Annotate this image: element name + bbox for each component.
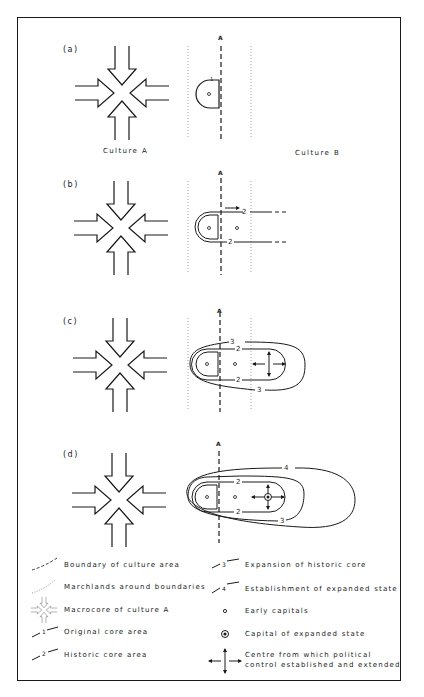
macrocore-arrows-icon <box>75 46 169 140</box>
boundary-label-a: A <box>218 34 223 41</box>
line-number-2: 2 <box>228 238 234 247</box>
legend-centre-label-2: control established and extended <box>245 661 401 670</box>
culture-b-label: Culture B <box>295 149 340 157</box>
boundary-label-b: A <box>218 169 223 176</box>
line-number-3: 3 <box>280 517 286 526</box>
legend-centre-label-1: Centre from which political <box>245 651 372 660</box>
legend-establishment-label: Establishment of expanded state <box>245 585 398 594</box>
line-number-4: 4 <box>284 464 290 473</box>
panel-label-c: (c) <box>63 317 78 326</box>
panel-b <box>74 178 288 275</box>
legend-boundary-label: Boundary of culture area <box>64 561 180 570</box>
legend-expansion-label: Expansion of historic core <box>245 561 367 570</box>
legend-num-1: 1 <box>42 627 47 636</box>
legend-num-4: 4 <box>222 584 227 593</box>
panel-label-b: (b) <box>63 180 79 189</box>
line-number-2: 2 <box>236 508 242 517</box>
panel-d <box>72 451 355 547</box>
panel-a <box>75 46 251 140</box>
legend-early-capitals-label: Early capitals <box>245 607 309 616</box>
legend-macrocore-label: Macrocore of culture A <box>64 606 169 615</box>
panel-c <box>73 312 305 412</box>
legend-capital-expanded-label: Capital of expanded state <box>245 630 365 639</box>
line-number-2: 2 <box>236 376 242 385</box>
converging-arrows-icon <box>31 597 57 623</box>
dashed-boundary-line-icon <box>32 558 57 570</box>
four-way-arrows-icon <box>208 648 242 674</box>
legend-num-2: 2 <box>42 649 47 658</box>
legend-historic-core-label: Historic core area <box>64 651 147 660</box>
legend-marchlands-label: Marchlands around boundaries <box>64 583 206 592</box>
boundary-label-c: A <box>217 307 222 314</box>
line-number-3: 3 <box>230 338 236 347</box>
legend-num-3: 3 <box>222 560 227 569</box>
dotted-marchland-line-icon <box>32 580 55 593</box>
boundary-label-d: A <box>216 440 221 447</box>
panel-label-a: (a) <box>63 45 79 54</box>
line-number-1: 1 <box>210 75 214 84</box>
small-circle-icon <box>223 609 226 612</box>
line-number-2: 2 <box>236 478 242 487</box>
legend-original-core-label: Original core area <box>64 628 148 637</box>
line-number-2: 2 <box>242 208 248 217</box>
culture-a-label: Culture A <box>103 147 148 155</box>
line-number-3: 3 <box>257 386 263 395</box>
line-number-2: 2 <box>236 345 242 354</box>
panel-label-d: (d) <box>63 450 79 459</box>
